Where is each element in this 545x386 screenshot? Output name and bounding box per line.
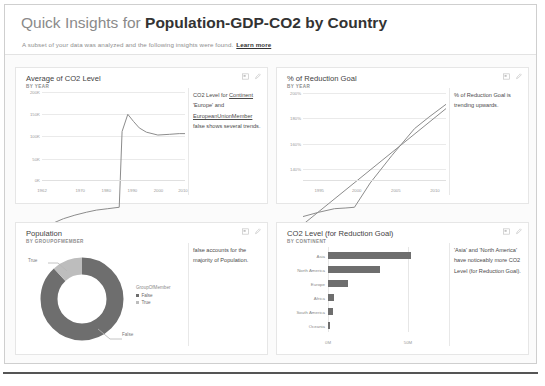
x-tick: 2000 [154,188,164,193]
card-subtitle: BY GROUPOFMEMBER [26,239,84,244]
learn-more-link[interactable]: Learn more [236,41,271,48]
pin-icon[interactable] [515,228,522,235]
bar-chart-co2-continent: Asia North America Europe Africa [285,247,448,346]
card-subtitle: BY YEAR [287,84,310,89]
insight-card-co2-average[interactable]: Average of CO2 Level BY YEAR 200K 150K 1… [15,67,268,204]
y-tick: 200K [30,89,40,94]
bar-row[interactable]: Africa [285,293,444,302]
x-tick: 2005 [391,188,401,193]
donut-label-true: True [28,258,37,263]
dialog-header: Quick Insights for Population-GDP-CO2 by… [5,5,536,55]
insight-card-reduction-goal[interactable]: % of Reduction Goal BY YEAR 200% 180% 16… [276,67,529,204]
card-title: Average of CO2 Level [26,74,101,83]
card-subtitle: BY CONTINENT [287,239,326,244]
y-axis: 200K 150K 100K 50K 0K [24,90,41,181]
bar-row[interactable]: South America [285,307,444,316]
line-series-co2 [42,90,185,233]
card-actions [242,73,261,80]
x-tick: 2010 [178,188,188,193]
y-tick: 100K [30,134,40,139]
chart-gridlines [303,90,446,181]
page-subtitle: A subset of your data was analyzed and t… [22,41,271,48]
bar-fill [328,252,411,259]
bar-track [328,307,444,316]
page-subtitle-text: A subset of your data was analyzed and t… [22,41,233,48]
bar-category-label: Europe [285,281,325,286]
y-tick: 140% [290,167,301,172]
insights-grid: Average of CO2 Level BY YEAR 200K 150K 1… [5,56,538,364]
legend-item-true[interactable]: True [136,300,170,305]
pin-icon[interactable] [254,73,261,80]
card-divider [188,88,189,195]
chart-gridlines [42,90,185,181]
bar-fill [328,294,334,301]
pin-icon[interactable] [254,228,261,235]
card-subtitle: BY YEAR [26,84,49,89]
insight-text: % of Reduction Goal is trending upwards. [454,90,522,111]
insight-card-co2-by-continent[interactable]: CO2 Level (for Reduction Goal) BY CONTIN… [276,222,529,355]
bar-track [328,321,444,330]
chart-plot-area: 200% 180% 160% 140% [285,90,448,195]
bar-track [328,279,444,288]
card-title: % of Reduction Goal [287,74,357,83]
insights-dialog: Quick Insights for Population-GDP-CO2 by… [4,4,537,364]
insight-text: CO2 Level for Continent 'Europe' and Eur… [193,90,261,131]
insight-field-eumember: EuropeanUnionMember [193,113,252,119]
donut-label-false: False [122,332,133,337]
bar-fill [328,280,348,287]
card-divider [449,243,450,346]
focus-mode-icon[interactable] [242,228,249,235]
pin-icon[interactable] [515,73,522,80]
y-tick: 150K [30,112,40,117]
insight-field-continent: Continent [229,92,253,98]
legend-item-false[interactable]: False [136,293,170,298]
focus-mode-icon[interactable] [242,73,249,80]
page-title: Quick Insights for Population-GDP-CO2 by… [21,14,387,32]
x-tick: 2010 [430,188,440,193]
y-tick: 180% [290,116,301,121]
legend-label: True [141,300,150,305]
insight-card-population[interactable]: Population BY GROUPOFMEMBER [15,222,268,355]
bar-track [328,293,444,302]
bar-track [328,265,444,274]
line-series-reduction [303,90,446,233]
bar-category-label: Asia [285,253,325,258]
y-axis: 200% 180% 160% 140% [285,90,302,181]
bottom-rule [3,372,538,374]
card-divider [449,88,450,195]
y-tick: 200% [290,90,301,95]
x-tick: 1962 [37,188,47,193]
bar-row[interactable]: Europe [285,279,444,288]
focus-mode-icon[interactable] [503,73,510,80]
chart-plot-area: 200K 150K 100K 50K 0K [24,90,187,195]
legend-swatch-icon [136,294,139,297]
bar-row[interactable]: Asia [285,251,444,260]
bar-fill [328,308,333,315]
bar-category-label: Oceania [285,323,325,328]
y-tick: 0K [35,178,40,183]
bar-row[interactable]: North America [285,265,444,274]
bar-fill [328,322,330,329]
legend-label: False [141,293,152,298]
x-tick: 50M [404,340,412,345]
bar-row[interactable]: Oceania [285,321,444,330]
x-tick: 1990 [128,188,138,193]
donut-svg [30,249,134,349]
card-actions [242,228,261,235]
legend-title: GroupOfMember [136,285,170,290]
quick-insights-page: Quick Insights for Population-GDP-CO2 by… [0,0,545,386]
page-title-prefix: Quick Insights for [21,14,145,31]
focus-mode-icon[interactable] [503,228,510,235]
card-actions [503,228,522,235]
page-title-dataset: Population-GDP-CO2 by Country [145,14,387,31]
x-tick: 1980 [102,188,112,193]
x-tick: 1970 [75,188,85,193]
donut-legend: GroupOfMember False True [136,285,170,305]
donut-chart-population: True False [30,249,134,349]
donut-slice-false [49,266,115,332]
card-title: CO2 Level (for Reduction Goal) [287,229,393,238]
bar-track [328,251,444,260]
legend-swatch-icon [136,301,139,304]
card-title: Population [26,229,62,238]
bar-category-label: North America [285,267,325,272]
